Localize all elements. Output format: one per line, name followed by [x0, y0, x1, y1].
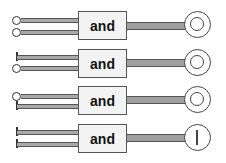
input-circle-icon [12, 64, 21, 73]
input-line [21, 66, 78, 71]
and-gate-box: and [78, 86, 127, 115]
gate-label: and [90, 93, 115, 109]
input-circle-icon [12, 28, 21, 37]
output-line [127, 59, 185, 67]
output-double-circle-icon [184, 86, 211, 113]
input-circle-icon [12, 16, 21, 25]
input-line [17, 130, 78, 135]
and-gate-box: and [78, 124, 127, 153]
output-line [127, 134, 185, 142]
input-line [21, 94, 78, 99]
output-double-circle-icon [184, 11, 211, 38]
and-gate-box: and [78, 49, 127, 78]
input-line [21, 30, 78, 35]
input-line [17, 104, 78, 109]
output-line [127, 96, 185, 104]
and-gate-box: and [78, 11, 127, 40]
input-line [17, 55, 78, 60]
input-circle-icon [12, 92, 21, 101]
input-line [17, 142, 78, 147]
input-line [21, 18, 78, 23]
gate-label: and [90, 131, 115, 147]
output-circle-line-icon [184, 124, 211, 151]
output-line [127, 22, 185, 30]
gate-label: and [90, 18, 115, 34]
gate-label: and [90, 56, 115, 72]
output-double-circle-icon [184, 49, 211, 76]
